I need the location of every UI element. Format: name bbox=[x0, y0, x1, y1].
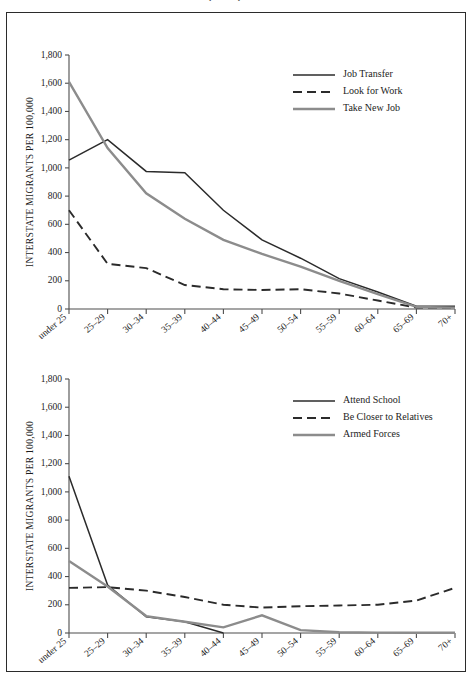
legend-label: Take New Job bbox=[343, 102, 400, 113]
y-tick-label: 600 bbox=[48, 219, 63, 229]
y-axis-title: INTERSTATE MIGRANTS PER 100,000 bbox=[25, 421, 35, 591]
y-tick-label: 1,800 bbox=[41, 50, 63, 60]
y-tick-label: 1,400 bbox=[41, 106, 63, 116]
x-tick-label: 70+ bbox=[436, 312, 454, 329]
legend-label: Look for Work bbox=[343, 85, 403, 96]
y-tick-label: 400 bbox=[48, 247, 63, 257]
x-tick-label: 55–59 bbox=[314, 636, 339, 659]
series-line-attend-school bbox=[69, 476, 223, 633]
x-tick-label: 35–39 bbox=[159, 312, 184, 335]
x-tick-label: 50–54 bbox=[275, 312, 300, 335]
x-tick-label: 25–29 bbox=[82, 636, 107, 659]
series-line-be-closer-to-relatives bbox=[69, 587, 455, 607]
y-tick-label: 400 bbox=[48, 571, 63, 581]
y-tick-label: 1,600 bbox=[41, 78, 63, 88]
y-tick-label: 1,000 bbox=[41, 487, 63, 497]
x-tick-label: 45–49 bbox=[237, 636, 262, 659]
legend-label: Be Closer to Relatives bbox=[343, 411, 433, 422]
y-axis-title: INTERSTATE MIGRANTS PER 100,000 bbox=[25, 97, 35, 267]
series-line-look-for-work bbox=[69, 210, 455, 307]
figure-frame: 02004006008001,0001,2001,4001,6001,800un… bbox=[6, 12, 466, 672]
series-group-2 bbox=[69, 476, 455, 633]
x-tick-label: 70+ bbox=[436, 636, 454, 653]
y-tick-label: 1,400 bbox=[41, 430, 63, 440]
y-tick-label: 1,600 bbox=[41, 402, 63, 412]
x-tick-label: 65–69 bbox=[391, 312, 416, 335]
chart-svg-2: 02004006008001,0001,2001,4001,6001,800un… bbox=[7, 343, 467, 667]
y-tick-label: 800 bbox=[48, 191, 63, 201]
legend-2: Attend SchoolBe Closer to RelativesArmed… bbox=[293, 394, 433, 439]
y-tick-label: 1,200 bbox=[41, 134, 63, 144]
chart-panel-1: 02004006008001,0001,2001,4001,6001,800un… bbox=[7, 19, 467, 343]
x-tick-label: 65–69 bbox=[391, 636, 416, 659]
series-line-armed-forces bbox=[69, 561, 455, 633]
x-tick-label: 25–29 bbox=[82, 312, 107, 335]
x-tick-label: 40–44 bbox=[198, 636, 223, 659]
legend-1: Job TransferLook for WorkTake New Job bbox=[293, 68, 403, 113]
series-line-take-new-job bbox=[69, 82, 455, 308]
x-tick-label: 45–49 bbox=[237, 312, 262, 335]
legend-label: Armed Forces bbox=[343, 428, 400, 439]
y-tick-label: 1,200 bbox=[41, 458, 63, 468]
y-tick-label: 1,800 bbox=[41, 374, 63, 384]
x-tick-label: 40–44 bbox=[198, 312, 223, 335]
figure-caption-top: 1975, 1980, and 1981 bbox=[0, 0, 474, 1]
x-tick-label: 50–54 bbox=[275, 636, 300, 659]
x-tick-label: 55–59 bbox=[314, 312, 339, 335]
x-tick-label: 30–34 bbox=[121, 312, 146, 335]
y-tick-label: 200 bbox=[48, 599, 63, 609]
chart-svg-1: 02004006008001,0001,2001,4001,6001,800un… bbox=[7, 19, 467, 343]
y-tick-label: 800 bbox=[48, 515, 63, 525]
y-tick-label: 1,000 bbox=[41, 163, 63, 173]
x-tick-label: 35–39 bbox=[159, 636, 184, 659]
x-tick-label: 30–34 bbox=[121, 636, 146, 659]
legend-label: Job Transfer bbox=[343, 68, 393, 79]
chart-panel-2: 02004006008001,0001,2001,4001,6001,800un… bbox=[7, 343, 467, 667]
x-tick-label: 60–64 bbox=[352, 312, 377, 335]
x-tick-label: under 25 bbox=[36, 312, 68, 341]
series-line-job-transfer bbox=[69, 140, 455, 307]
x-tick-label: 60–64 bbox=[352, 636, 377, 659]
y-tick-label: 200 bbox=[48, 275, 63, 285]
series-group-1 bbox=[69, 82, 455, 308]
y-tick-label: 600 bbox=[48, 543, 63, 553]
x-tick-label: under 25 bbox=[36, 636, 68, 665]
legend-label: Attend School bbox=[343, 394, 401, 405]
